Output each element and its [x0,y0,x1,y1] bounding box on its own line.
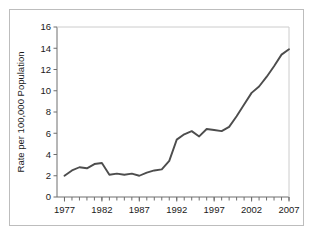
x-axis-tick-label: 1997 [204,204,225,215]
chart-figure: 0246810121416197719821987199219972002200… [0,0,313,235]
y-axis-tick-label: 16 [40,21,51,32]
y-axis-title: Rate per 100,000 Population [15,52,26,173]
y-axis-tick-label: 12 [40,64,51,75]
x-axis-tick-label: 1992 [166,204,187,215]
y-axis-tick-label: 8 [46,106,51,117]
line-chart: 0246810121416197719821987199219972002200… [0,0,313,235]
x-axis-tick-label: 2002 [241,204,262,215]
data-series-line [64,49,289,175]
y-axis-tick-label: 10 [40,85,51,96]
y-axis-tick-label: 14 [40,43,51,54]
x-axis-tick-label: 2007 [278,204,299,215]
plot-area: 0246810121416197719821987199219972002200… [15,21,300,215]
y-axis-tick-label: 4 [46,149,51,160]
y-axis-tick-label: 6 [46,128,51,139]
y-axis-tick-label: 2 [46,170,51,181]
y-axis-tick-label: 0 [46,191,51,202]
x-axis-tick-label: 1977 [54,204,75,215]
x-axis-tick-label: 1987 [129,204,150,215]
x-axis-tick-label: 1982 [91,204,112,215]
